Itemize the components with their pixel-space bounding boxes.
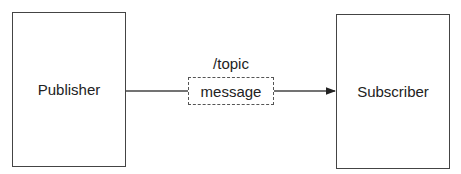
subscriber-node: Subscriber — [336, 14, 450, 169]
publisher-label: Publisher — [38, 81, 101, 98]
message-node: message — [188, 77, 274, 105]
publisher-node: Publisher — [12, 12, 126, 167]
subscriber-label: Subscriber — [357, 83, 429, 100]
message-label: message — [201, 83, 262, 100]
topic-label: /topic — [188, 55, 274, 72]
